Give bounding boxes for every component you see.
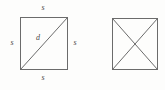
left-square-diagonal-line bbox=[21, 18, 68, 70]
left-square-group bbox=[21, 18, 68, 70]
left-square-left-side-label: s bbox=[7, 39, 17, 47]
left-square-right-side-label: s bbox=[70, 39, 80, 47]
left-square-bottom-side-label: s bbox=[38, 74, 48, 82]
left-square-top-side-label: s bbox=[38, 4, 48, 12]
geometry-figure-canvas bbox=[0, 0, 165, 90]
right-square-group bbox=[113, 19, 158, 70]
left-square-diagonal-label: d bbox=[33, 34, 43, 42]
